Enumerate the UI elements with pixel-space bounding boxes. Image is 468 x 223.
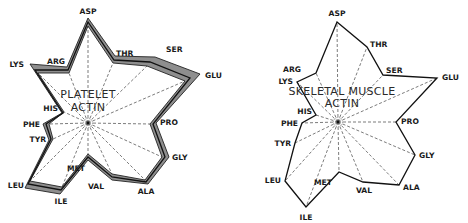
skeletal-label-met: MET [314, 178, 333, 187]
platelet-label-ser: SER [166, 45, 183, 54]
platelet-label-ala: ALA [138, 187, 155, 196]
platelet-label-glu: GLU [205, 71, 222, 80]
platelet-label-thr: THR [116, 49, 134, 58]
platelet-title-line-1: PLATELET [60, 88, 116, 101]
platelet-label-his: HIS [43, 104, 58, 113]
platelet-label-tyr: TYR [29, 135, 46, 144]
skeletal-label-phe: PHE [281, 119, 298, 128]
skeletal-label-gly: GLY [419, 151, 435, 160]
platelet-spoke-phe [49, 123, 88, 124]
platelet-label-lys: LYS [9, 60, 24, 69]
skeletal-label-thr: THR [370, 40, 388, 49]
skeletal-label-asp: ASP [329, 9, 346, 18]
actin-comparison-figure: PLATELET ACTIN ASPTHRSERGLUPROGLYALAVALM… [0, 0, 468, 223]
platelet-label-asp: ASP [80, 7, 97, 16]
platelet-label-met: MET [67, 164, 86, 173]
skeletal-labels: ASPTHRSERGLUPROGLYALAVALMETILELEUTYRPHEH… [265, 9, 459, 222]
skeletal-spoke-ile [306, 122, 338, 207]
platelet-spoke-ile [62, 123, 88, 187]
skeletal-label-val: VAL [356, 186, 372, 195]
skeletal-label-arg: ARG [283, 65, 301, 74]
platelet-label-ile: ILE [55, 197, 68, 206]
skeletal-label-his: HIS [297, 107, 312, 116]
skeletal-center-marker [334, 118, 343, 127]
platelet-label-arg: ARG [47, 57, 65, 66]
platelet-label-phe: PHE [23, 120, 40, 129]
platelet-actin-diagram: PLATELET ACTIN ASPTHRSERGLUPROGLYALAVALM… [8, 7, 222, 206]
skeletal-title-line-2: ACTIN [325, 97, 360, 110]
skeletal-label-ala: ALA [403, 183, 420, 192]
platelet-spoke-pro [88, 123, 150, 124]
skeletal-label-tyr: TYR [274, 139, 291, 148]
platelet-label-leu: LEU [8, 181, 24, 190]
skeletal-actin-diagram: SKELETAL MUSCLE ACTIN ASPTHRSERGLUPROGLY… [265, 9, 459, 222]
platelet-label-val: VAL [88, 182, 104, 191]
skeletal-label-leu: LEU [265, 176, 281, 185]
skeletal-label-ile: ILE [300, 213, 313, 222]
platelet-label-gly: GLY [172, 153, 188, 162]
skeletal-label-lys: LYS [278, 77, 293, 86]
skeletal-label-ser: SER [386, 66, 403, 75]
skeletal-label-glu: GLU [442, 73, 459, 82]
platelet-label-pro: PRO [160, 118, 178, 127]
platelet-spoke-ala [88, 123, 145, 180]
platelet-center-marker [84, 119, 93, 128]
platelet-title-line-2: ACTIN [71, 101, 106, 114]
skeletal-label-pro: PRO [401, 117, 419, 126]
skeletal-spoke-phe [302, 122, 338, 123]
skeletal-spoke-met [338, 122, 339, 172]
platelet-spoke-tyr [53, 123, 88, 139]
platelet-spoke-gly [88, 123, 162, 157]
skeletal-spoke-his [316, 115, 338, 122]
